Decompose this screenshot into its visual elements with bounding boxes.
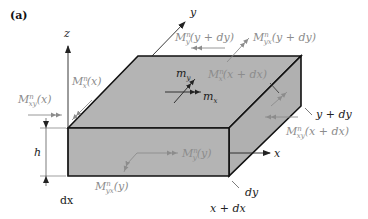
- x-plus-dx-label: x + dx: [210, 202, 246, 215]
- mx-x-label: Mnx(x): [71, 75, 102, 90]
- y-axis-label: y: [189, 6, 197, 19]
- dy-label: dy: [245, 186, 259, 199]
- panel-label: (a): [10, 9, 28, 22]
- h-arrow-bottom: [43, 176, 49, 183]
- myx-ydy-label: Mnyx(y + dy): [252, 31, 316, 46]
- my-ydy-label: Mny(y + dy): [174, 31, 234, 46]
- dx-text: dx: [60, 194, 74, 207]
- y-plus-dy-label: y + dy: [315, 108, 352, 121]
- myx-y-label: Mnyx(y): [94, 180, 129, 195]
- mxy-x-label: Mnxy(x): [17, 93, 51, 108]
- plate-element-diagram: (a) z y x h dx dy x + dx y + dy Mnxy(x) …: [0, 0, 368, 219]
- h-arrow-top: [43, 121, 49, 128]
- dy-leader: [232, 181, 239, 188]
- y-plus-dy-leader: [305, 108, 312, 115]
- x-axis-label: x: [274, 147, 281, 160]
- h-label: h: [34, 146, 41, 159]
- mx-xdx-label: Mnx(x + dx): [207, 68, 267, 83]
- mxy-xdx-label: Mnxy(x + dx): [285, 125, 349, 140]
- z-axis-label: z: [63, 27, 70, 40]
- my-y-label: Mny(y): [181, 147, 212, 162]
- dx-label: dx: [60, 194, 74, 207]
